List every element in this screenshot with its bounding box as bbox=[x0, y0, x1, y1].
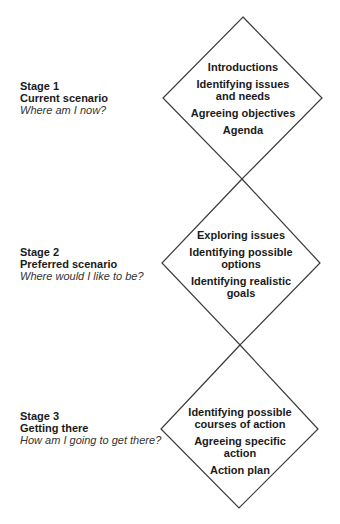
stage-1-question: Where am I now? bbox=[20, 104, 108, 116]
stage-3-activities: Identifying possible courses of action A… bbox=[165, 406, 315, 476]
stage-3-number: Stage 3 bbox=[20, 410, 161, 422]
stage-1-label: Stage 1 Current scenario Where am I now? bbox=[20, 80, 108, 116]
activity-item: Agreeing objectives bbox=[168, 107, 318, 119]
stage-2-activities: Exploring issues Identifying possible op… bbox=[166, 229, 316, 299]
activity-item: Exploring issues bbox=[166, 229, 316, 241]
activity-item: Agreeing specific action bbox=[190, 435, 290, 459]
stage-2-label: Stage 2 Preferred scenario Where would I… bbox=[20, 246, 144, 282]
stage-3-label: Stage 3 Getting there How am I going to … bbox=[20, 410, 161, 446]
stage-2-number: Stage 2 bbox=[20, 246, 144, 258]
stage-2-title: Preferred scenario bbox=[20, 258, 144, 270]
activity-item: Action plan bbox=[165, 464, 315, 476]
activity-item: Agenda bbox=[168, 124, 318, 136]
activity-item: Introductions bbox=[168, 61, 318, 73]
stage-1-number: Stage 1 bbox=[20, 80, 108, 92]
stage-3-title: Getting there bbox=[20, 422, 161, 434]
stage-1-title: Current scenario bbox=[20, 92, 108, 104]
stage-2-question: Where would I like to be? bbox=[20, 270, 144, 282]
activity-item: Identifying possible options bbox=[181, 246, 301, 270]
activity-item: Identifying realistic goals bbox=[186, 275, 296, 299]
stage-3-question: How am I going to get there? bbox=[20, 434, 161, 446]
activity-item: Identifying issues and needs bbox=[188, 78, 298, 102]
activity-item: Identifying possible courses of action bbox=[180, 406, 300, 430]
stage-1-activities: Introductions Identifying issues and nee… bbox=[168, 61, 318, 136]
